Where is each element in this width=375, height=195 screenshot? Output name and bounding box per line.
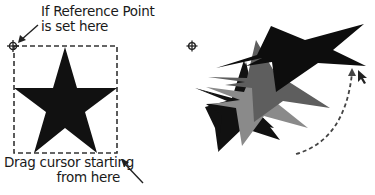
reference-point-icon <box>7 40 19 52</box>
right-panel <box>187 24 368 154</box>
reference-label-line1: If Reference Point <box>41 4 154 19</box>
arrow-cursor-icon <box>358 70 367 84</box>
drag-arrowhead <box>348 68 356 76</box>
drag-label-line2: from here <box>4 170 120 185</box>
drag-path <box>296 73 352 154</box>
black-star <box>14 47 117 153</box>
reference-point-label: If Reference Point is set here <box>41 4 154 34</box>
drag-label-line1: Drag cursor starting <box>4 155 120 170</box>
pointer-arrow-to-reference <box>18 25 38 43</box>
reference-point-icon-right <box>187 41 198 52</box>
reference-label-line2: is set here <box>41 19 154 34</box>
drag-cursor-label: Drag cursor starting from here <box>4 155 120 185</box>
